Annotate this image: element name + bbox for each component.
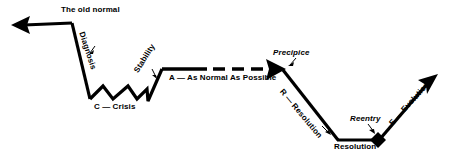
crisis-zigzag-line (90, 69, 162, 101)
label-old-normal: The old normal (61, 6, 120, 14)
old-normal-line (24, 23, 72, 25)
label-resolution: Resolution (334, 143, 376, 151)
label-reentry: Reentry (350, 115, 381, 123)
label-crisis: C — Crisis (94, 103, 135, 111)
label-as-normal-as-possible: A — As Normal As Possible (169, 74, 276, 82)
crisis-trajectory-diagram: The old normal Diagnosis C — Crisis Stab… (0, 0, 451, 159)
precipice-pointer-arrow-icon (288, 62, 294, 66)
reentry-pointer-arrow-icon (369, 129, 375, 134)
label-precipice: Precipice (273, 49, 309, 57)
